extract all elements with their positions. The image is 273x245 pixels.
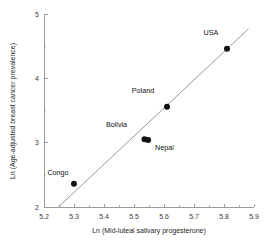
scatter-plot-figure: 5.25.35.45.55.65.75.85.9 2345 CongoBoliv… [0, 0, 273, 245]
y-tick-label: 5 [35, 11, 39, 18]
y-tick-label: 4 [35, 75, 39, 82]
x-tick-label: 5.4 [99, 213, 109, 220]
x-tick-label: 5.7 [189, 213, 199, 220]
y-tick-label: 2 [35, 204, 39, 211]
data-point-poland [164, 104, 170, 110]
data-point-congo [71, 181, 77, 187]
y-tick-label: 3 [35, 139, 39, 146]
x-axis-tick-labels: 5.25.35.45.55.65.75.85.9 [39, 213, 259, 220]
x-tick-label: 5.6 [159, 213, 169, 220]
regression-line [58, 29, 248, 207]
y-axis-title: Ln (Age-adjusted breast cancer prevalenc… [9, 43, 17, 179]
y-axis-tick-labels: 2345 [35, 11, 39, 211]
x-tick-label: 5.9 [249, 213, 259, 220]
data-point-nepal [145, 137, 151, 143]
data-point-labels: CongoBoliviaNepalPolandUSA [47, 28, 218, 177]
point-label-bolivia: Bolivia [106, 120, 127, 129]
point-label-poland: Poland [132, 86, 154, 95]
x-tick-label: 5.2 [39, 213, 49, 220]
data-point-group [71, 46, 230, 187]
x-axis-title: Ln (Mid-luteal salivary progesterone) [92, 227, 206, 235]
point-label-usa: USA [204, 28, 219, 37]
data-point-usa [224, 46, 230, 52]
x-tick-label: 5.3 [69, 213, 79, 220]
plot-canvas: 5.25.35.45.55.65.75.85.9 2345 CongoBoliv… [0, 0, 273, 245]
x-tick-label: 5.8 [219, 213, 229, 220]
point-label-nepal: Nepal [155, 143, 174, 152]
x-tick-label: 5.5 [129, 213, 139, 220]
point-label-congo: Congo [47, 168, 68, 177]
